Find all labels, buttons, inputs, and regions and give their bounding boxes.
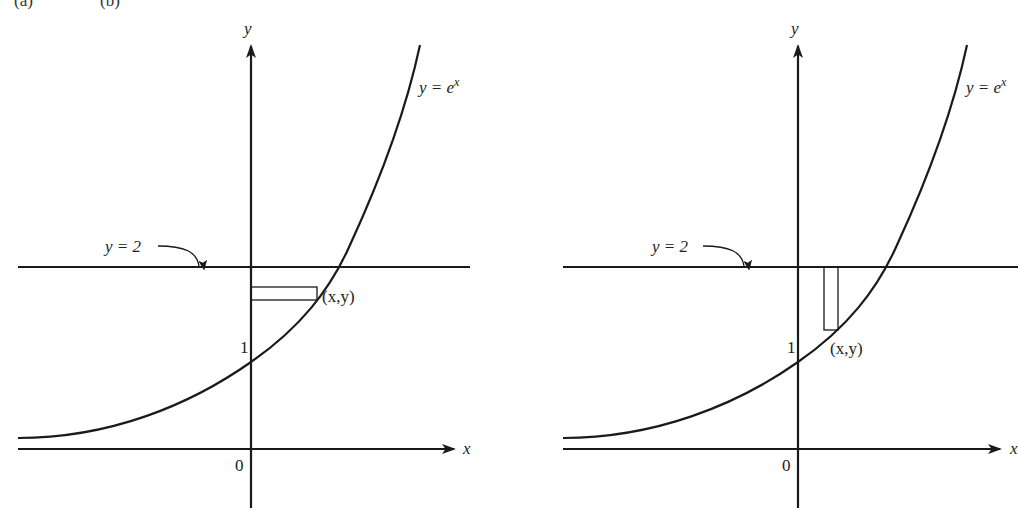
x-axis-label: x xyxy=(1009,439,1018,458)
point-label: (x,y) xyxy=(830,339,863,358)
curve-label: y = ex xyxy=(964,75,1007,97)
exponential-curve xyxy=(563,45,967,438)
figure-right: y x 0 1 y = 2 (x,y) y = ex xyxy=(563,19,1018,508)
horizontal-strip-rect xyxy=(251,287,317,300)
curve-label-exponent: x xyxy=(453,75,460,89)
curve-label-base: y = e xyxy=(964,78,1002,97)
curve-label: y = ex xyxy=(417,75,460,97)
vertical-strip-rect xyxy=(824,267,838,330)
origin-label: 0 xyxy=(782,456,791,475)
figure-left: y x 0 1 y = 2 (x,y) y = ex xyxy=(18,19,471,508)
x-axis-label: x xyxy=(462,439,471,458)
curve-label-exponent: x xyxy=(1000,75,1007,89)
tick-1-label: 1 xyxy=(787,338,796,357)
diagram-canvas: y x 0 1 y = 2 (x,y) y = ex y x 0 1 y = 2… xyxy=(0,0,1018,529)
pointer-arrow-icon xyxy=(703,246,744,266)
line-y2-label: y = 2 xyxy=(103,237,142,256)
tick-1-label: 1 xyxy=(240,338,249,357)
pointer-arrow-icon xyxy=(158,246,199,266)
point-label: (x,y) xyxy=(322,287,355,306)
y-axis-label: y xyxy=(242,19,252,38)
exponential-curve xyxy=(18,45,420,438)
line-y2-label: y = 2 xyxy=(650,237,689,256)
origin-label: 0 xyxy=(235,456,244,475)
curve-label-base: y = e xyxy=(417,78,455,97)
y-axis-label: y xyxy=(789,19,799,38)
